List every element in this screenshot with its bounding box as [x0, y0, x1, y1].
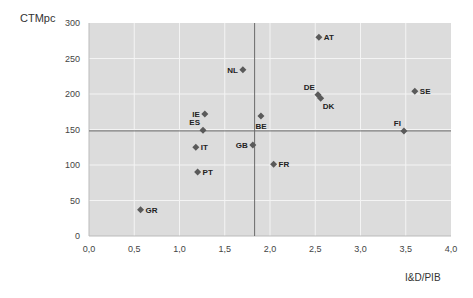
- x-tick-label: 0,5: [128, 244, 141, 254]
- y-tick-label: 300: [65, 18, 80, 28]
- data-point-label: GR: [146, 206, 158, 215]
- y-tick-label: 100: [65, 160, 80, 170]
- data-point-label: AT: [324, 33, 334, 42]
- data-point-label: DE: [304, 83, 316, 92]
- y-tick-label: 250: [65, 54, 80, 64]
- y-tick-label: 150: [65, 125, 80, 135]
- data-point-label: FR: [279, 160, 290, 169]
- x-tick-label: 0,0: [83, 244, 96, 254]
- x-tick-label: 1,5: [218, 244, 231, 254]
- x-tick-label: 3,5: [399, 244, 412, 254]
- data-point-label: DK: [323, 102, 335, 111]
- y-tick-label: 200: [65, 89, 80, 99]
- data-point-label: IT: [201, 143, 208, 152]
- scatter-chart: 0,00,51,01,52,02,53,03,54,00501001502002…: [0, 0, 473, 298]
- data-point-label: ES: [189, 118, 200, 127]
- y-tick-label: 0: [75, 231, 80, 241]
- x-tick-label: 2,5: [309, 244, 322, 254]
- x-tick-label: 3,0: [354, 244, 367, 254]
- y-tick-label: 50: [70, 196, 80, 206]
- data-point-label: NL: [227, 66, 238, 75]
- x-tick-label: 4,0: [445, 244, 458, 254]
- x-tick-label: 2,0: [264, 244, 277, 254]
- x-tick-label: 1,0: [173, 244, 186, 254]
- data-point-label: BE: [255, 122, 267, 131]
- data-point-label: PT: [203, 168, 213, 177]
- data-point-label: GB: [236, 141, 248, 150]
- data-point-label: FI: [394, 119, 401, 128]
- data-point-label: SE: [420, 87, 431, 96]
